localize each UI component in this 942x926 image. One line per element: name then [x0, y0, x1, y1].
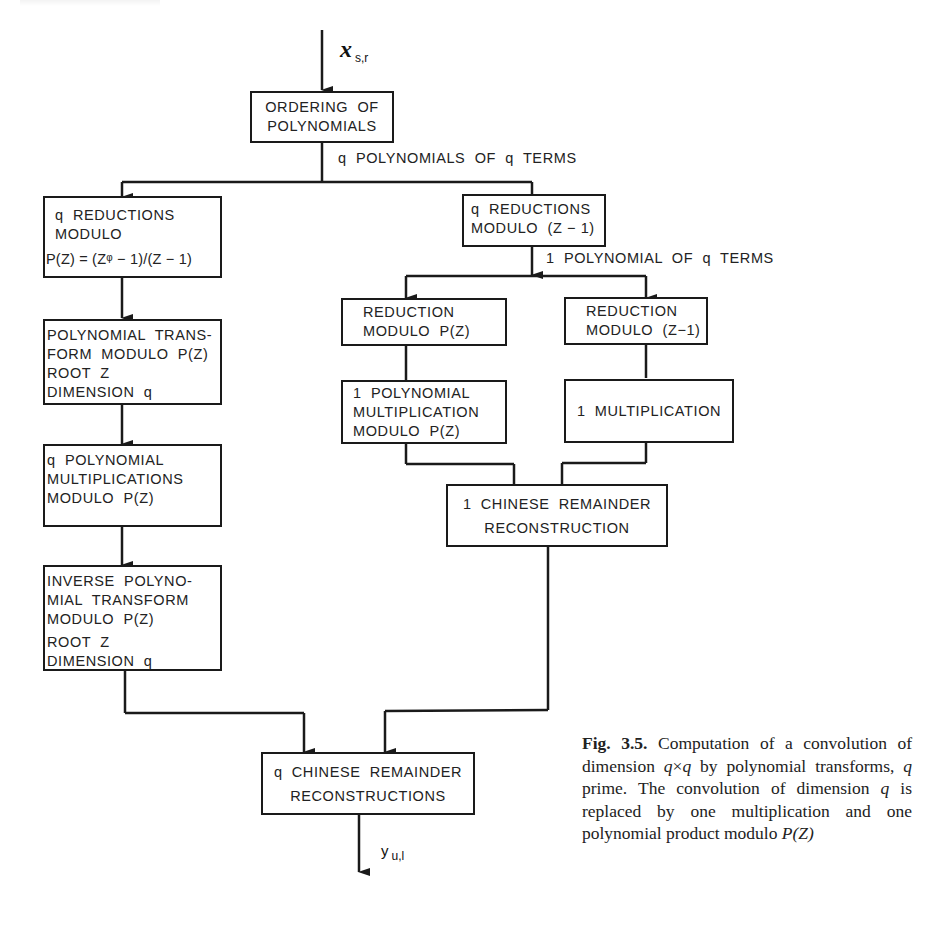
box-line: ROOT Z	[47, 364, 218, 383]
figure-number: Fig. 3.5.	[582, 733, 647, 753]
box-line: 1 MULTIPLICATION	[572, 402, 726, 421]
box-line: DIMENSION q	[47, 652, 218, 671]
caption-math: P(Z)	[782, 823, 814, 843]
caption-text: by polynomial transforms,	[691, 756, 903, 776]
input-variable-label: xs,r	[340, 36, 368, 63]
box-line: POLYNOMIALS	[256, 117, 388, 136]
output-symbol: y	[381, 842, 389, 859]
box-polynomial-transform: POLYNOMIAL TRANS- FORM MODULO P(Z) ROOT …	[43, 319, 222, 405]
box-1-chinese-remainder-reconstruction: 1 CHINESE REMAINDER RECONSTRUCTION	[446, 484, 668, 547]
box-line: ROOT Z	[47, 633, 218, 652]
box-line: q REDUCTIONS	[55, 206, 218, 225]
box-line: MODULO P(Z)	[363, 322, 505, 341]
output-variable-label: yu,l	[381, 842, 404, 859]
box-line: MODULO P(Z)	[47, 489, 218, 508]
box-line: REDUCTION	[586, 302, 706, 321]
flowchart-figure: xs,r ORDERING OF POLYNOMIALS q POLYNOMIA…	[0, 0, 942, 926]
box-q-reductions-modulo-z-minus-1: q REDUCTIONS MODULO (Z − 1)	[462, 194, 606, 247]
input-symbol: x	[340, 36, 352, 62]
input-subscript: s,r	[355, 51, 368, 65]
edge-label-1-polynomial: 1 POLYNOMIAL OF q TERMS	[546, 250, 774, 266]
box-line: MIAL TRANSFORM	[47, 591, 218, 610]
box-1-multiplication: 1 MULTIPLICATION	[564, 379, 734, 443]
box-line: DIMENSION q	[47, 383, 218, 402]
box-line: MODULO P(Z)	[47, 610, 218, 629]
caption-text: prime. The convolution of dimension	[582, 778, 881, 798]
box-line: MODULO P(Z)	[353, 422, 505, 441]
box-q-chinese-remainder-reconstructions: q CHINESE REMAINDER RECONSTRUCTIONS	[261, 752, 475, 815]
box-reduction-modulo-pz: REDUCTION MODULO P(Z)	[341, 298, 507, 346]
caption-math: q	[664, 756, 673, 776]
box-reduction-modulo-z-minus-1: REDUCTION MODULO (Z−1)	[564, 297, 708, 345]
box-line: MULTIPLICATION	[353, 403, 505, 422]
box-q-polynomial-multiplications: q POLYNOMIAL MULTIPLICATIONS MODULO P(Z)	[43, 444, 222, 527]
box-line: 1 POLYNOMIAL	[353, 384, 505, 403]
box-inverse-polynomial-transform: INVERSE POLYNO- MIAL TRANSFORM MODULO P(…	[43, 565, 222, 671]
box-line: 1 CHINESE REMAINDER	[454, 492, 660, 516]
box-line: MODULO	[55, 225, 218, 244]
box-line: FORM MODULO P(Z)	[47, 345, 218, 364]
box-line-formula: P(Z) = (Zᵠ − 1)/(Z − 1)	[46, 250, 218, 269]
output-subscript: u,l	[392, 849, 405, 863]
box-line: MULTIPLICATIONS	[47, 470, 218, 489]
box-line: MODULO (Z − 1)	[471, 219, 604, 238]
box-line: MODULO (Z−1)	[586, 321, 706, 340]
box-line: RECONSTRUCTION	[454, 516, 660, 540]
box-line: ORDERING OF	[256, 98, 388, 117]
box-q-reductions-modulo-pz: q REDUCTIONS MODULO P(Z) = (Zᵠ − 1)/(Z −…	[43, 196, 222, 278]
caption-math: q	[682, 756, 691, 776]
box-line: q POLYNOMIAL	[47, 451, 218, 470]
box-line: INVERSE POLYNO-	[47, 572, 218, 591]
box-line: RECONSTRUCTIONS	[269, 784, 467, 808]
caption-math: q	[881, 778, 890, 798]
caption-math: ×	[673, 756, 683, 776]
box-line: q REDUCTIONS	[471, 200, 604, 219]
caption-math: q	[903, 756, 912, 776]
box-line: POLYNOMIAL TRANS-	[47, 326, 218, 345]
box-line: REDUCTION	[363, 303, 505, 322]
box-ordering-of-polynomials: ORDERING OF POLYNOMIALS	[250, 91, 394, 143]
edge-label-q-polynomials: q POLYNOMIALS OF q TERMS	[338, 150, 577, 166]
box-1-polynomial-multiplication: 1 POLYNOMIAL MULTIPLICATION MODULO P(Z)	[341, 380, 507, 444]
figure-caption: Fig. 3.5. Computation of a convolution o…	[582, 732, 912, 845]
box-line: q CHINESE REMAINDER	[269, 760, 467, 784]
